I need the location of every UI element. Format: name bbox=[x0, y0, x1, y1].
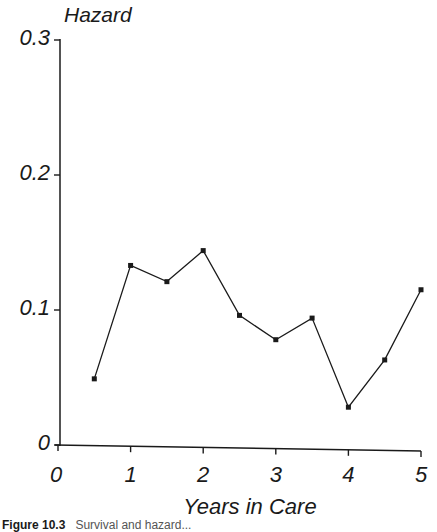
x-tick-label: 5 bbox=[406, 462, 436, 488]
y-ticks bbox=[54, 40, 60, 445]
y-tick-label: 0 bbox=[0, 430, 50, 456]
y-axis-title: Hazard bbox=[64, 3, 132, 27]
data-point-marker bbox=[346, 405, 351, 410]
data-point-marker bbox=[128, 263, 133, 268]
x-axis-title: Years in Care bbox=[150, 494, 350, 520]
caption-label: Figure 10.3 bbox=[2, 518, 65, 532]
x-axis bbox=[55, 445, 421, 451]
y-tick-label: 0.2 bbox=[0, 160, 50, 186]
x-tick-label: 3 bbox=[261, 462, 291, 488]
data-point-marker bbox=[310, 316, 315, 321]
x-ticks bbox=[58, 445, 421, 457]
data-point-marker bbox=[92, 376, 97, 381]
y-tick-label: 0.3 bbox=[0, 25, 50, 51]
data-point-marker bbox=[164, 279, 169, 284]
x-tick-label: 2 bbox=[188, 462, 218, 488]
x-tick-label: 4 bbox=[333, 462, 363, 488]
data-point-marker bbox=[237, 313, 242, 318]
hazard-series-line bbox=[94, 251, 421, 408]
data-point-marker bbox=[273, 337, 278, 342]
data-point-marker bbox=[419, 287, 424, 292]
caption-text: Survival and hazard... bbox=[75, 518, 191, 532]
y-tick-label: 0.1 bbox=[0, 295, 50, 321]
data-point-markers bbox=[92, 248, 424, 410]
data-point-marker bbox=[201, 248, 206, 253]
data-point-marker bbox=[382, 357, 387, 362]
x-tick-label: 0 bbox=[41, 462, 71, 488]
x-tick-label: 1 bbox=[116, 462, 146, 488]
figure-caption: Figure 10.3 Survival and hazard... bbox=[2, 518, 191, 532]
